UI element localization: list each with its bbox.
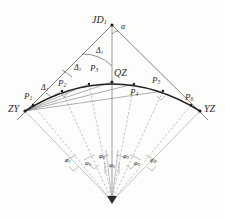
radii-fan	[25, 84, 200, 201]
label-delta3: Δ3	[41, 84, 48, 93]
dot-p4	[133, 83, 135, 85]
label-p6: P6	[185, 93, 193, 103]
tick-p5-box	[157, 96, 165, 100]
label-curve-end: YZ	[204, 104, 215, 114]
dot-p5	[162, 90, 164, 92]
label-p4: P4	[130, 88, 138, 98]
label-phi0-c: φ0	[109, 162, 115, 169]
label-delta1: Δ1	[96, 47, 103, 56]
label-phi4: φ4	[150, 157, 156, 164]
radius-inner-right	[112, 150, 118, 201]
label-phi1: φ1	[65, 157, 71, 164]
centre-vertex-marker	[107, 196, 117, 204]
tick-right-outer	[147, 166, 156, 171]
point-markers	[23, 23, 201, 112]
label-alpha: α	[121, 23, 125, 31]
dot-p2	[61, 90, 63, 92]
radius-to-p2	[62, 91, 112, 201]
label-delta2: Δ2	[74, 64, 81, 73]
tick-left-outer	[69, 166, 78, 171]
dot-yz	[198, 109, 201, 112]
label-curve-midpoint: QZ	[114, 68, 127, 78]
tick-left-mid	[90, 164, 99, 169]
dot-p3	[88, 83, 90, 85]
label-p1: P1	[24, 92, 32, 102]
label-p5: P5	[152, 76, 160, 86]
dot-p6	[190, 104, 192, 106]
diagram-canvas	[0, 0, 225, 220]
radius-to-p5	[112, 91, 163, 201]
dot-apex	[110, 23, 113, 26]
label-phi0-b: φ0	[99, 153, 105, 160]
radius-to-p3	[89, 84, 112, 201]
chord-zy-qz	[25, 82, 112, 111]
curve-diagram: JD1 α Δ1 Δ2 Δ3 ZY QZ YZ P1 P2 P3 P4 P5 P…	[0, 0, 225, 220]
radius-to-p4	[112, 84, 134, 201]
label-phi0-e: φ0	[134, 160, 140, 167]
label-apex: JD1	[92, 15, 107, 26]
arc-alpha	[112, 31, 118, 34]
dot-qz	[111, 81, 114, 84]
label-curve-start: ZY	[8, 104, 19, 114]
dot-p1	[32, 104, 34, 106]
label-phi0-d: φ0	[123, 153, 129, 160]
dot-zy	[23, 109, 26, 112]
label-phi0-a: φ0	[85, 160, 91, 167]
label-p3: P3	[90, 64, 98, 74]
label-p2: P2	[58, 79, 66, 89]
arc-delta3	[46, 93, 52, 98]
